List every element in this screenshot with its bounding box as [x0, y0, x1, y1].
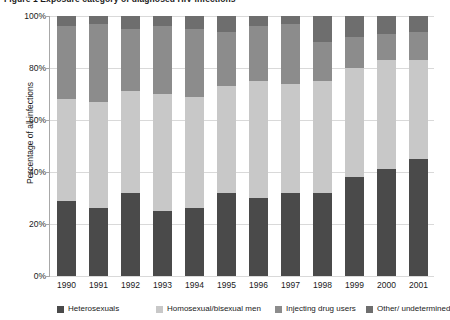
bar-segment [121, 29, 140, 91]
bar-1994[interactable] [185, 16, 204, 276]
bar-1990[interactable] [57, 16, 76, 276]
bar-segment [153, 211, 172, 276]
legend-label: Heterosexuals [68, 305, 119, 313]
bar-1997[interactable] [281, 16, 300, 276]
legend-item[interactable]: Heterosexuals [57, 303, 119, 315]
bar-segment [345, 37, 364, 68]
y-tick-label: 0% [6, 272, 46, 281]
bar-1999[interactable] [345, 16, 364, 276]
bar-segment [121, 91, 140, 192]
bar-segment [89, 24, 108, 102]
bar-segment [377, 60, 396, 169]
bar-segment [89, 102, 108, 209]
bar-segment [409, 16, 428, 32]
bar-segment [217, 86, 236, 193]
bar-segment [249, 26, 268, 81]
gridline [50, 276, 434, 277]
bar-segment [185, 16, 204, 29]
plot-area [50, 16, 434, 276]
bar-segment [345, 177, 364, 276]
bar-segment [281, 16, 300, 24]
bar-segment [377, 34, 396, 60]
bar-segment [217, 32, 236, 87]
bar-segment [249, 198, 268, 276]
y-tick-label: 40% [6, 168, 46, 177]
bar-segment [57, 26, 76, 99]
bar-1998[interactable] [313, 16, 332, 276]
bar-2001[interactable] [409, 16, 428, 276]
bar-segment [345, 68, 364, 177]
y-tick-label: 80% [6, 64, 46, 73]
bar-segment [185, 208, 204, 276]
bar-segment [281, 24, 300, 84]
legend-label: Injecting drug users [286, 305, 356, 313]
bar-segment [153, 16, 172, 26]
chart-legend: HeterosexualsHomosexual/bisexual menInje… [0, 303, 438, 317]
legend-swatch-icon [275, 306, 282, 313]
bar-segment [121, 16, 140, 29]
y-axis-ticks: 0%20%40%60%80%100% [0, 0, 46, 320]
legend-item[interactable]: Other/ undetermined [366, 303, 450, 315]
bar-segment [89, 208, 108, 276]
bar-segment [217, 193, 236, 276]
bar-segment [345, 16, 364, 37]
bar-1991[interactable] [89, 16, 108, 276]
bar-segment [57, 16, 76, 26]
bar-segment [313, 193, 332, 276]
y-tick-label: 100% [6, 12, 46, 21]
bar-segment [409, 60, 428, 159]
legend-item[interactable]: Injecting drug users [275, 303, 356, 315]
bar-segment [185, 97, 204, 209]
bar-segment [281, 84, 300, 193]
bar-segment [185, 29, 204, 97]
bar-segment [249, 16, 268, 26]
legend-label: Homosexual/bisexual men [167, 305, 261, 313]
bar-segment [377, 169, 396, 276]
y-tick-label: 20% [6, 220, 46, 229]
legend-label: Other/ undetermined [377, 305, 450, 313]
legend-swatch-icon [156, 306, 163, 313]
bar-segment [249, 81, 268, 198]
bar-segment [313, 16, 332, 42]
y-tick-label: 60% [6, 116, 46, 125]
bar-1995[interactable] [217, 16, 236, 276]
bar-segment [57, 201, 76, 276]
legend-item[interactable]: Homosexual/bisexual men [156, 303, 261, 315]
bar-segment [409, 32, 428, 61]
bar-segment [281, 193, 300, 276]
bar-1996[interactable] [249, 16, 268, 276]
bar-1992[interactable] [121, 16, 140, 276]
bar-segment [313, 81, 332, 193]
legend-swatch-icon [57, 306, 64, 313]
bar-2000[interactable] [377, 16, 396, 276]
figure-title-clipped: Figure 1 Exposure category of diagnosed … [0, 0, 438, 6]
bar-segment [313, 42, 332, 81]
bar-segment [89, 16, 108, 24]
bar-segment [377, 16, 396, 34]
x-tick-label-2001: 2001 [399, 281, 439, 290]
legend-swatch-icon [366, 306, 373, 313]
bar-segment [57, 99, 76, 200]
bar-segment [153, 94, 172, 211]
bar-segment [217, 16, 236, 32]
bar-segment [121, 193, 140, 276]
bar-1993[interactable] [153, 16, 172, 276]
bar-segment [153, 26, 172, 94]
bar-segment [409, 159, 428, 276]
